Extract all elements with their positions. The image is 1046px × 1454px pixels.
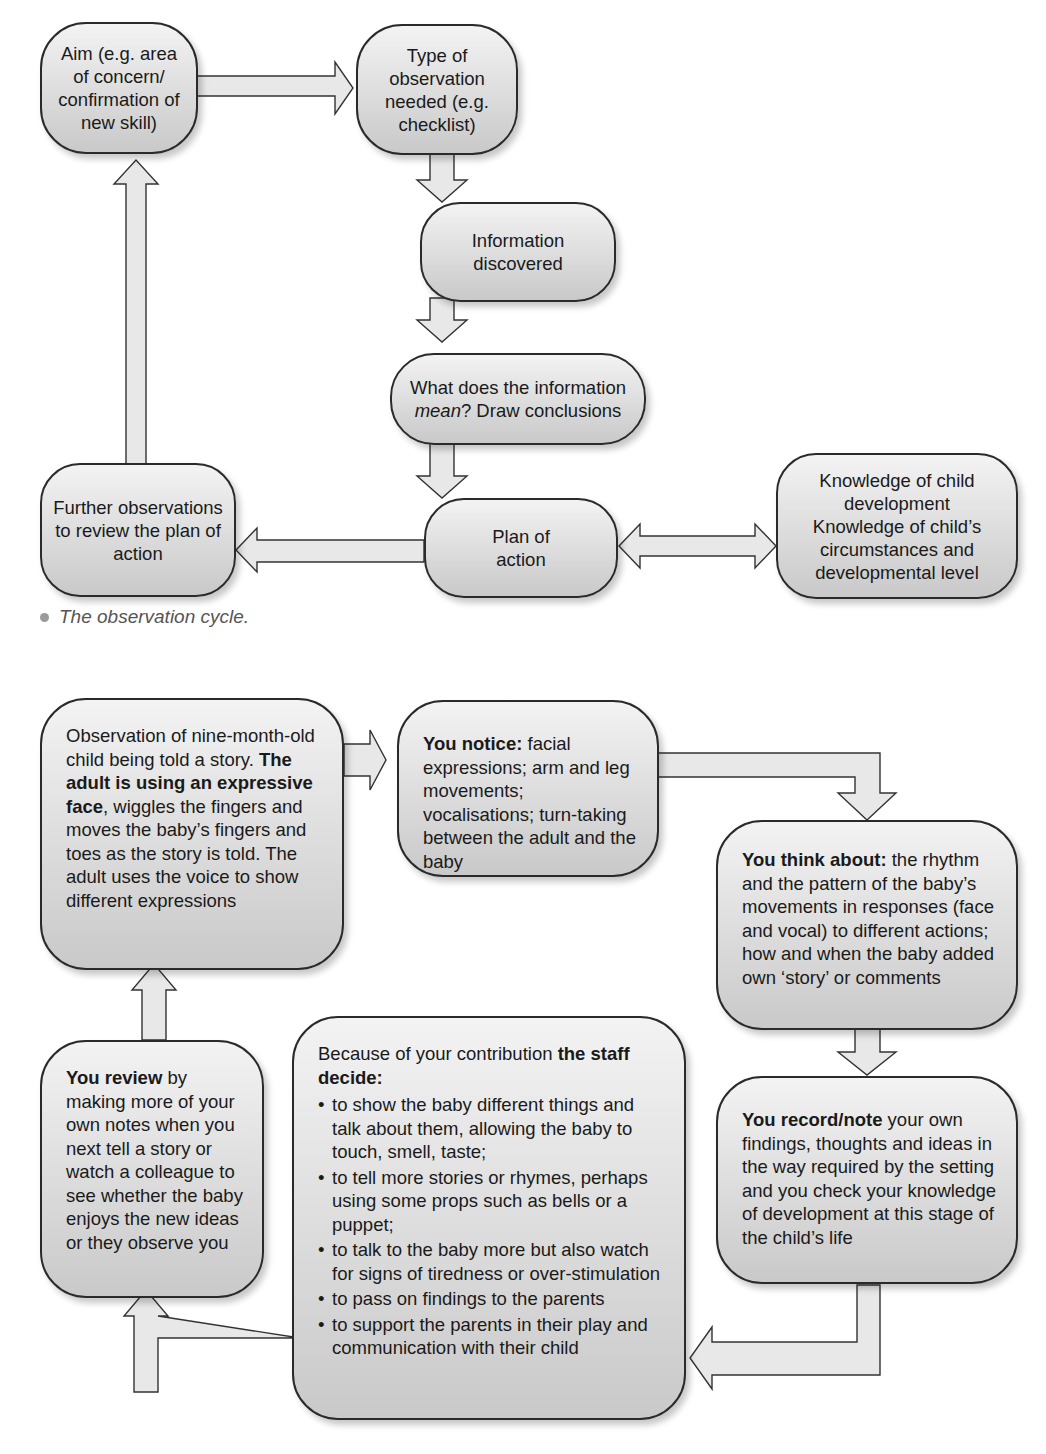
caption-text: The observation cycle. — [59, 606, 249, 628]
arrow-review-to-observation — [132, 964, 176, 1040]
arrow-info-to-mean — [417, 298, 467, 342]
node-further-observations: Further observations to review the plan … — [40, 463, 236, 597]
staff-decide-intro: Because of your contribution the staff d… — [318, 1043, 630, 1088]
node-information-discovered-text: Information discovered — [432, 229, 604, 275]
arrow-staff-to-review — [124, 1290, 300, 1392]
arrow-record-to-staff — [690, 1285, 880, 1389]
node-what-does-it-mean-text: What does the information mean? Draw con… — [402, 376, 634, 422]
node-aim-text: Aim (e.g. area of concern/ confirmation … — [52, 42, 186, 134]
node-staff-decide: Because of your contribution the staff d… — [292, 1016, 686, 1420]
arrow-mean-to-plan — [417, 441, 467, 498]
node-plan-of-action-text: Plan of action — [481, 525, 561, 571]
node-information-discovered: Information discovered — [420, 202, 616, 302]
staff-decision-item: to tell more stories or rhymes, perhaps … — [318, 1166, 666, 1237]
node-staff-decide-content: Because of your contribution the staff d… — [318, 1042, 666, 1362]
node-you-notice: You notice: facial expressions; arm and … — [397, 700, 659, 877]
node-knowledge: Knowledge of child development Knowledge… — [776, 453, 1018, 599]
node-you-review: You review by making more of your own no… — [40, 1040, 264, 1298]
node-you-record-text: You record/note your own findings, thoug… — [742, 1108, 998, 1249]
arrow-aim-to-type — [197, 62, 353, 114]
figure-caption-1: The observation cycle. — [40, 606, 249, 628]
node-further-observations-text: Further observations to review the plan … — [52, 496, 224, 565]
node-observation-story: Observation of nine-month-old child bein… — [40, 698, 344, 970]
node-observation-type: Type of observation needed (e.g. checkli… — [356, 24, 518, 155]
node-you-think-about: You think about: the rhythm and the patt… — [716, 820, 1018, 1030]
staff-decision-item: to support the parents in their play and… — [318, 1313, 666, 1360]
node-observation-story-text: Observation of nine-month-old child bein… — [66, 724, 324, 912]
node-what-does-it-mean: What does the information mean? Draw con… — [390, 353, 646, 445]
node-you-notice-text: You notice: facial expressions; arm and … — [423, 732, 639, 873]
arrow-notice-to-think — [658, 753, 896, 820]
arrow-observation-to-notice — [344, 730, 386, 790]
staff-decision-item: to talk to the baby more but also watch … — [318, 1238, 666, 1285]
arrow-plan-knowledge — [619, 524, 776, 568]
staff-decision-item: to show the baby different things and ta… — [318, 1093, 666, 1164]
arrow-think-to-record — [838, 1027, 896, 1075]
node-you-record: You record/note your own findings, thoug… — [716, 1076, 1018, 1284]
arrow-further-to-aim — [114, 160, 158, 465]
node-observation-type-text: Type of observation needed (e.g. checkli… — [368, 44, 506, 136]
caption-bullet-icon — [40, 613, 49, 622]
arrow-plan-to-further — [236, 528, 424, 572]
node-you-review-text: You review by making more of your own no… — [66, 1066, 244, 1254]
staff-decision-item: to pass on findings to the parents — [318, 1287, 666, 1311]
staff-decisions-list: to show the baby different things and ta… — [318, 1093, 666, 1360]
node-plan-of-action: Plan of action — [424, 498, 618, 598]
node-you-think-about-text: You think about: the rhythm and the patt… — [742, 848, 998, 989]
arrow-type-to-info — [417, 152, 467, 202]
node-knowledge-text: Knowledge of child development Knowledge… — [797, 469, 997, 584]
node-aim: Aim (e.g. area of concern/ confirmation … — [40, 22, 198, 154]
